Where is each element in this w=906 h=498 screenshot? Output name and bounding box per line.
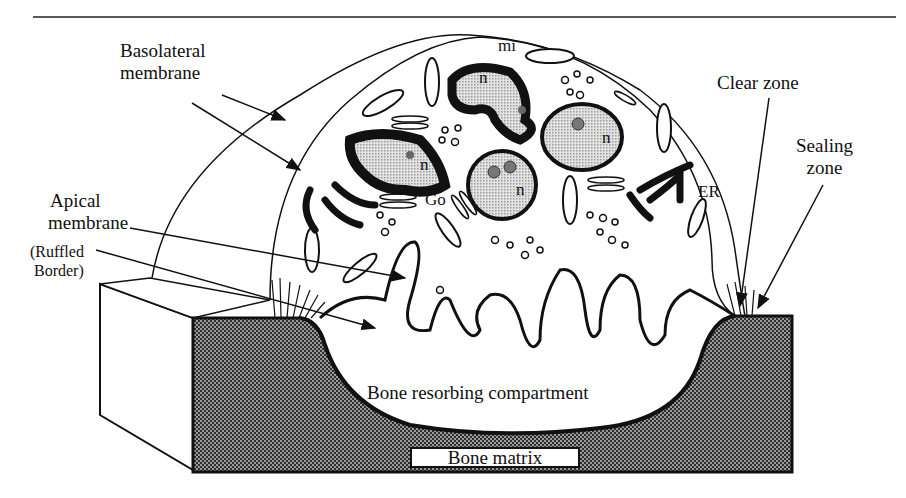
ruffled-line-1: (Ruffled bbox=[30, 242, 84, 261]
sealing-zone-label: Sealing zone bbox=[796, 135, 853, 179]
sealing-line-1: Sealing bbox=[796, 135, 853, 157]
osteoclast-diagram: Basolateral membrane Apical membrane (Ru… bbox=[0, 0, 906, 498]
er-label: ER bbox=[698, 182, 720, 202]
apical-line-2: membrane bbox=[48, 212, 128, 234]
nucleus-label-4: n bbox=[516, 180, 525, 200]
apical-line-1: Apical bbox=[48, 190, 128, 212]
bone-matrix-label: Bone matrix bbox=[410, 447, 580, 468]
clear-zone-arrow bbox=[740, 98, 769, 306]
basolateral-arrow-2 bbox=[192, 103, 300, 170]
basolateral-arrow-1 bbox=[222, 95, 285, 120]
sealing-zone-arrow bbox=[758, 185, 823, 308]
nucleus-label-2: n bbox=[602, 128, 611, 148]
clear-zone-label: Clear zone bbox=[717, 72, 799, 94]
nucleus-label-1: n bbox=[479, 68, 488, 88]
basolateral-line-1: Basolateral bbox=[120, 40, 205, 62]
resorbing-compartment-label: Bone resorbing compartment bbox=[367, 382, 589, 404]
sealing-line-2: zone bbox=[796, 157, 853, 179]
basolateral-line-2: membrane bbox=[120, 62, 205, 84]
nucleus-label-3: n bbox=[420, 155, 429, 175]
apical-label: Apical membrane bbox=[48, 190, 128, 234]
golgi-label: Go bbox=[425, 190, 446, 210]
mitochondria-label: mi bbox=[498, 36, 516, 56]
ruffled-arrow bbox=[96, 250, 375, 328]
basolateral-label: Basolateral membrane bbox=[120, 40, 205, 84]
ruffled-border-label: (Ruffled Border) bbox=[30, 242, 84, 280]
ruffled-line-2: Border) bbox=[30, 261, 84, 280]
